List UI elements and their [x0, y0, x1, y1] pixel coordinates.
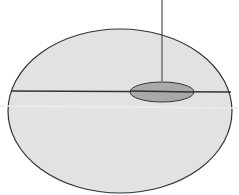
diagram-canvas [0, 0, 239, 195]
outer-ellipse [8, 29, 232, 193]
